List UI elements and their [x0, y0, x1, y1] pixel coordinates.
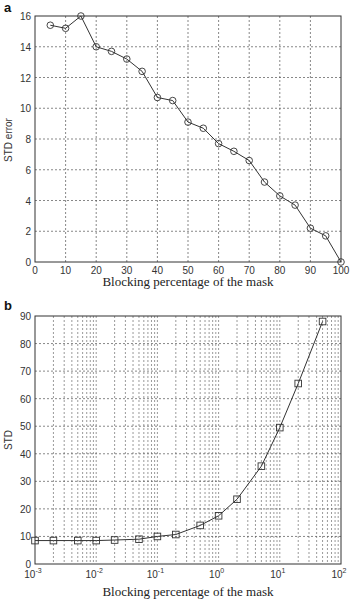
panel-a-label: a — [4, 0, 12, 15]
y-tick-label: 4 — [25, 196, 31, 207]
figure: a 01020304050607080901000246810121416 Bl… — [0, 0, 352, 614]
y-tick-label: 20 — [20, 504, 32, 515]
y-tick-label: 16 — [20, 11, 32, 22]
x-tick-label: 10-2 — [86, 567, 103, 580]
y-tick-label: 0 — [25, 257, 31, 268]
y-tick-label: 14 — [20, 42, 32, 53]
x-tick-label: 20 — [91, 265, 103, 276]
y-tick-label: 8 — [25, 134, 31, 145]
chart-a: 01020304050607080901000246810121416 — [20, 11, 350, 276]
y-tick-label: 50 — [20, 421, 32, 432]
y-tick-label: 40 — [20, 449, 32, 460]
y-tick-label: 80 — [20, 339, 32, 350]
x-tick-label: 80 — [274, 265, 286, 276]
x-tick-label: 102 — [331, 567, 346, 580]
x-tick-label: 10 — [60, 265, 72, 276]
y-tick-label: 60 — [20, 394, 32, 405]
y-tick-label: 12 — [20, 73, 32, 84]
panel-b-label: b — [4, 298, 12, 313]
chart-b: 10-310-210-11001011020102030405060708090 — [20, 311, 347, 580]
y-tick-label: 0 — [25, 559, 31, 570]
y-tick-label: 90 — [20, 311, 32, 322]
y-tick-label: 6 — [25, 165, 31, 176]
plot-frame — [35, 316, 341, 564]
y-tick-label: 10 — [20, 103, 32, 114]
x-tick-label: 100 — [209, 567, 224, 580]
chart-b-xlabel: Blocking percentage of the mask — [102, 584, 274, 599]
chart-a-ylabel: STD error — [3, 117, 14, 162]
x-tick-label: 0 — [32, 265, 38, 276]
y-tick-label: 70 — [20, 366, 32, 377]
y-tick-label: 10 — [20, 531, 32, 542]
x-tick-label: 100 — [333, 265, 350, 276]
chart-a-xlabel: Blocking percentage of the mask — [102, 274, 274, 289]
x-tick-label: 10-1 — [147, 567, 164, 580]
x-tick-label: 101 — [270, 567, 285, 580]
chart-b-ylabel: STD — [3, 430, 14, 450]
y-tick-label: 2 — [25, 226, 31, 237]
x-tick-label: 90 — [305, 265, 317, 276]
y-tick-label: 30 — [20, 476, 32, 487]
